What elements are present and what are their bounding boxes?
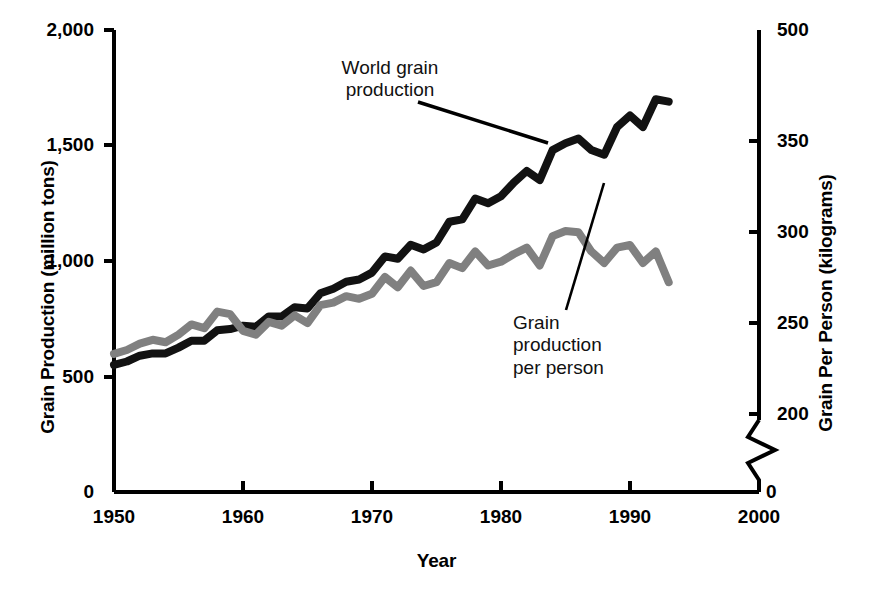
x-axis-title: Year (0, 550, 873, 572)
leader-line-world-grain (418, 102, 548, 143)
ytick-label-right-300: 300 (777, 221, 809, 243)
ytick-label-right-500: 500 (777, 19, 809, 41)
y-axis-left-title: Grain Production (million tons) (37, 97, 59, 497)
annotation-world-grain-production: World grain production (305, 57, 475, 102)
xtick-label-1960: 1960 (203, 506, 283, 528)
xtick-label-1950: 1950 (74, 506, 154, 528)
ytick-label-right-200: 200 (777, 403, 809, 425)
xtick-label-1980: 1980 (461, 506, 541, 528)
annotation-grain-production-per-person: Grain production per person (513, 312, 673, 379)
ytick-label-left-2000: 2,000 (16, 19, 94, 41)
chart-figure: 2,000 1,500 1,000 500 0 500 350 300 250 … (0, 0, 873, 594)
xtick-label-1990: 1990 (590, 506, 670, 528)
xtick-label-2000: 2000 (719, 506, 799, 528)
leader-line-per-person (566, 183, 604, 310)
ytick-label-right-250: 250 (777, 312, 809, 334)
y-axis-right-title: Grain Per Person (kilograms) (815, 93, 837, 513)
ytick-label-right-0: 0 (766, 481, 777, 503)
ytick-label-right-350: 350 (777, 130, 809, 152)
xtick-label-1970: 1970 (332, 506, 412, 528)
